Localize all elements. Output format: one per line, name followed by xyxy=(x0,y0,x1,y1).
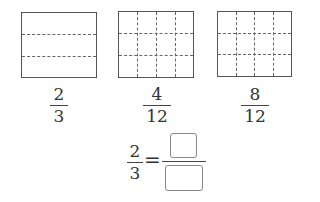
denominator: 12 xyxy=(137,108,177,125)
column-divider xyxy=(175,12,176,77)
fraction-model-1 xyxy=(21,12,97,78)
denominator-answer-box[interactable] xyxy=(165,165,203,191)
equals-sign: = xyxy=(144,150,161,170)
fraction-label-1: 2 3 xyxy=(39,86,79,125)
column-divider xyxy=(156,12,157,77)
fraction-model-3 xyxy=(217,11,292,77)
numerator: 4 xyxy=(137,86,177,103)
denominator: 3 xyxy=(39,108,79,125)
column-divider xyxy=(236,12,237,76)
denominator: 12 xyxy=(235,108,275,125)
column-divider xyxy=(137,12,138,77)
row-divider xyxy=(22,56,96,57)
answer-fraction-bar xyxy=(162,161,206,162)
numerator: 8 xyxy=(235,86,275,103)
fraction-label-3: 8 12 xyxy=(235,86,275,125)
numerator-answer-box[interactable] xyxy=(170,133,197,158)
fraction-label-2: 4 12 xyxy=(137,86,177,125)
column-divider xyxy=(254,12,255,76)
column-divider xyxy=(273,12,274,76)
numerator: 2 xyxy=(39,86,79,103)
fraction-model-2 xyxy=(118,11,194,78)
row-divider xyxy=(22,34,96,35)
